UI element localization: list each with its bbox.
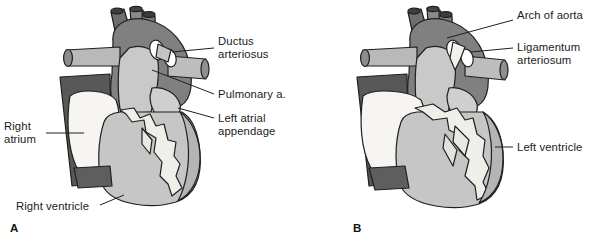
label-right-atrium: Right atrium (4, 120, 36, 145)
leader-lines-b (305, 0, 609, 246)
label-left-ventricle: Left ventricle (517, 141, 582, 154)
leader-pulmonary-a (152, 70, 214, 94)
panel-a-diagram: Ductus arteriosus Pulmonary a. Left atri… (0, 0, 304, 246)
label-right-ventricle: Right ventricle (16, 200, 89, 213)
label-left-atrial-appendage: Left atrial appendage (218, 112, 275, 137)
label-ductus-arteriosus: Ductus arteriosus (218, 35, 269, 60)
panel-b-diagram: Arch of aorta Ligamentum arteriosum Left… (305, 0, 609, 246)
leader-right-ventricle-a (100, 195, 124, 205)
leader-ductus-a (172, 48, 214, 52)
figure-container: Ductus arteriosus Pulmonary a. Left atri… (0, 0, 609, 246)
leader-arch-of-aorta-b (447, 20, 513, 38)
leader-ligamentum-b (471, 48, 513, 52)
label-arch-of-aorta: Arch of aorta (517, 9, 583, 22)
label-pulmonary-artery: Pulmonary a. (218, 88, 286, 101)
panel-letter-b: B (353, 222, 361, 234)
panel-letter-a: A (10, 222, 18, 234)
leader-appendage-a (178, 108, 214, 118)
label-ligamentum-arteriosum: Ligamentum arteriosum (517, 41, 580, 66)
